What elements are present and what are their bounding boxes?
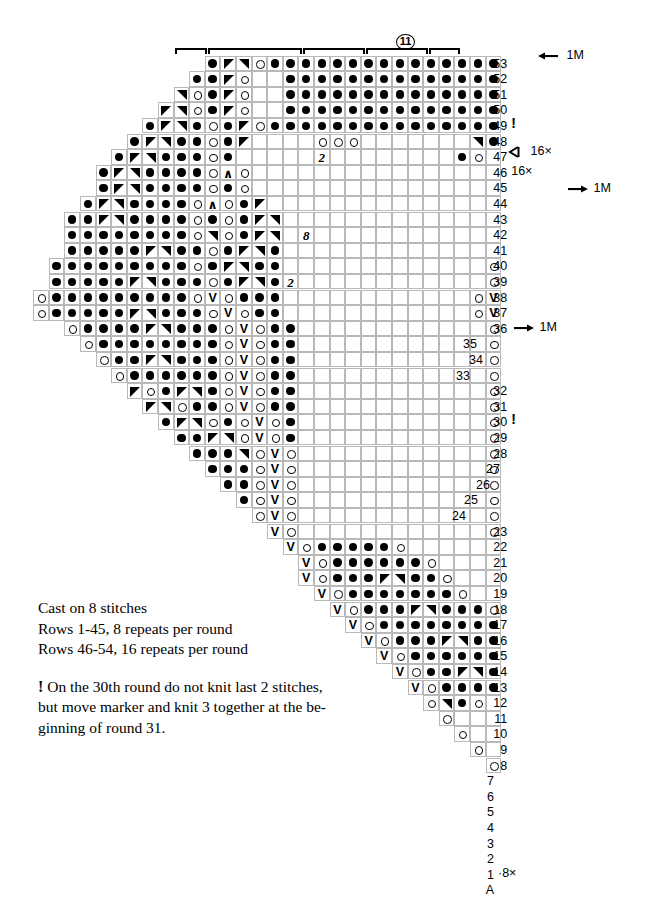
row-number-16: 16	[481, 634, 507, 648]
chart-cell	[267, 118, 283, 134]
row-number-50: 50	[481, 103, 507, 117]
chart-cell	[298, 430, 314, 446]
stitch-d-icon	[159, 369, 173, 383]
stitch-d-icon	[97, 275, 111, 289]
stitch-d-icon	[159, 166, 173, 180]
stitch-blank	[393, 322, 407, 336]
chart-cell	[361, 336, 377, 352]
stitch-d-icon	[393, 119, 407, 133]
stitch-o-icon	[190, 88, 204, 102]
stitch-o-icon	[206, 181, 220, 195]
stitch-d-icon	[128, 228, 142, 242]
stitch-d-icon	[143, 291, 157, 305]
chart-cell	[142, 180, 158, 196]
chart-cell	[298, 414, 314, 430]
chart-cell	[376, 539, 392, 555]
stitch-l-icon	[128, 275, 142, 289]
chart-cell	[361, 212, 377, 228]
chart-cell	[142, 118, 158, 134]
stitch-r-icon	[190, 384, 204, 398]
stitch-d-icon	[362, 72, 376, 86]
chart-cell	[111, 290, 127, 306]
stitch-blank	[331, 384, 345, 398]
chart-cell	[392, 414, 408, 430]
chart-cell: V	[267, 492, 283, 508]
stitch-d-icon	[268, 291, 282, 305]
stitch-d-icon	[175, 431, 189, 445]
stitch-blank	[346, 493, 360, 507]
chart-cell	[330, 149, 346, 165]
stitch-blank	[362, 384, 376, 398]
chart-cell	[454, 180, 470, 196]
chart-cell	[314, 212, 330, 228]
chart-cell	[345, 227, 361, 243]
chart-cell	[298, 539, 314, 555]
chart-cell	[174, 165, 190, 181]
stitch-blank	[377, 478, 391, 492]
chart-cell	[220, 383, 236, 399]
chart-cell	[189, 134, 205, 150]
stitch-blank	[346, 322, 360, 336]
stitch-blank	[409, 415, 423, 429]
row-number-47: 47	[481, 150, 507, 164]
chart-cell	[80, 227, 96, 243]
stitch-blank	[393, 166, 407, 180]
stitch-blank	[346, 244, 360, 258]
stitch-o-icon	[315, 571, 329, 585]
chart-cell	[205, 87, 221, 103]
chart-cell	[408, 56, 424, 72]
chart-cell	[361, 539, 377, 555]
stitch-blank	[409, 166, 423, 180]
chart-cell	[267, 180, 283, 196]
stitch-d-icon	[112, 353, 126, 367]
chart-cell	[252, 196, 268, 212]
chart-cell	[142, 258, 158, 274]
row-number-value: 27	[486, 462, 500, 476]
stitch-o-icon	[206, 415, 220, 429]
chart-cell	[267, 56, 283, 72]
stitch-d-icon	[143, 228, 157, 242]
chart-cell	[252, 508, 268, 524]
stitch-blank	[299, 306, 313, 320]
stitch-d-icon	[65, 306, 79, 320]
stitch-blank	[455, 197, 469, 211]
chart-cell	[96, 321, 112, 337]
stitch-d-icon	[190, 369, 204, 383]
stitch-r-icon	[159, 244, 173, 258]
stitch-blank	[440, 540, 454, 554]
chart-cell	[142, 321, 158, 337]
stitch-r-icon	[206, 228, 220, 242]
chart-cell	[345, 508, 361, 524]
chart-cell	[314, 352, 330, 368]
stitch-d-icon	[159, 197, 173, 211]
chart-cell	[439, 305, 455, 321]
chart-cell	[423, 508, 439, 524]
row-number-30: 30	[481, 415, 507, 429]
stitch-r-icon	[175, 88, 189, 102]
chart-cell	[376, 227, 392, 243]
row-number-value: 4	[487, 821, 494, 835]
stitch-d-icon	[253, 259, 267, 273]
stitch-d-icon	[440, 103, 454, 117]
chart-cell	[283, 352, 299, 368]
chart-cell	[80, 258, 96, 274]
stitch-blank	[393, 369, 407, 383]
chart-cell: V	[267, 477, 283, 493]
stitch-d-icon	[159, 213, 173, 227]
stitch-blank	[424, 306, 438, 320]
chart-cell	[361, 383, 377, 399]
stitch-blank	[409, 525, 423, 539]
chart-cell	[220, 71, 236, 87]
stitch-blank	[424, 509, 438, 523]
stitch-v-icon: V	[268, 509, 282, 523]
chart-cell	[423, 430, 439, 446]
chart-cell	[345, 399, 361, 415]
stitch-r-icon	[159, 322, 173, 336]
stitch-o-icon	[284, 462, 298, 476]
stitch-blank	[299, 322, 313, 336]
chart-cell	[252, 243, 268, 259]
chart-cell	[158, 243, 174, 259]
chart-cell	[454, 446, 470, 462]
chart-cell	[392, 539, 408, 555]
chart-cell: V	[267, 461, 283, 477]
